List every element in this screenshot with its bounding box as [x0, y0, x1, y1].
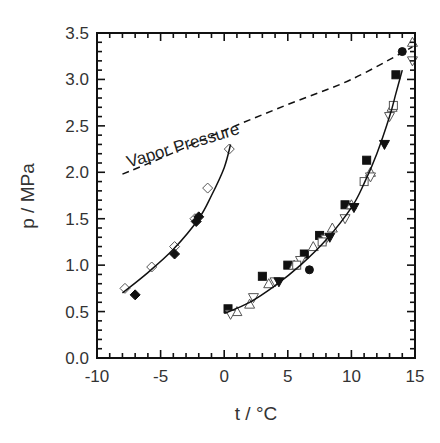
y-tick-label: 2.5 [65, 117, 89, 136]
chart-svg: -10-50510150.00.51.01.52.02.53.03.5 t / … [0, 0, 440, 443]
series [224, 70, 402, 313]
data-point [170, 249, 180, 259]
data-point [258, 272, 266, 280]
x-tick-label: 15 [406, 367, 425, 386]
y-axis-title: p / MPa [17, 163, 38, 229]
series [224, 71, 400, 313]
y-tick-label: 3.0 [65, 70, 89, 89]
axes: -10-50510150.00.51.01.52.02.53.03.5 [65, 24, 424, 386]
x-axis-title: t / °C [235, 403, 277, 424]
y-tick-label: 1.5 [65, 210, 89, 229]
y-tick-label: 0.5 [65, 303, 89, 322]
x-tick-label: 10 [342, 367, 361, 386]
x-tick-label: 5 [283, 367, 292, 386]
plot-frame [97, 33, 415, 358]
data-point [305, 266, 313, 274]
y-tick-label: 2.0 [65, 163, 89, 182]
data-point [130, 290, 140, 300]
y-tick-label: 0.0 [65, 349, 89, 368]
data-point [203, 183, 213, 193]
plot-area [120, 37, 417, 319]
y-tick-label: 3.5 [65, 24, 89, 43]
vapor-pressure-label: Vapor Pressure [124, 119, 241, 171]
y-tick-label: 1.0 [65, 256, 89, 275]
x-tick-label: -5 [153, 367, 168, 386]
x-tick-label: 0 [219, 367, 228, 386]
fit-curve [224, 70, 402, 313]
data-point [392, 71, 400, 79]
series [293, 101, 398, 269]
x-tick-label: -10 [85, 367, 110, 386]
series [226, 57, 418, 320]
data-point [363, 156, 371, 164]
